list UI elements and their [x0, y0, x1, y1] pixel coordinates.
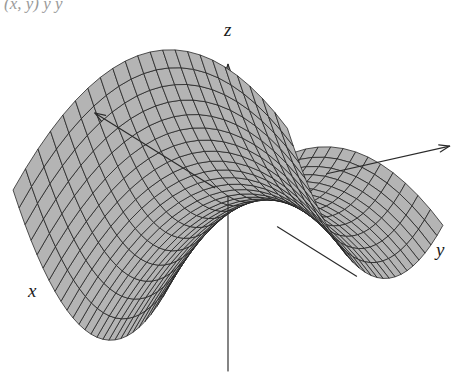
surface-plot-svg: (x, y) y y x y z [0, 0, 456, 389]
axis-label-z: z [223, 19, 232, 40]
figure-root: (x, y) y y x y z [0, 0, 456, 389]
axis-label-x: x [27, 280, 37, 301]
axis-label-y: y [434, 239, 445, 260]
caption-fragment: (x, y) y y [4, 0, 63, 13]
